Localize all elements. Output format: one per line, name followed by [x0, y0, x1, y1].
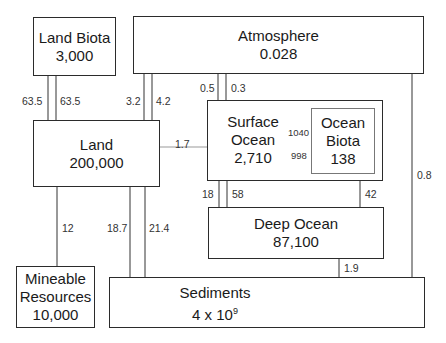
reservoir-name: Land Biota — [39, 29, 111, 47]
reservoir-value: 2,710 — [218, 149, 288, 167]
flux-label-land-to-land-biota: 63.5 — [22, 95, 42, 107]
flux-label-atmosphere-to-surface-ocean: 0.5 — [200, 82, 215, 94]
reservoir-deep-ocean: Deep Ocean 87,100 — [208, 207, 384, 259]
reservoir-name-line2: Biota — [326, 132, 360, 150]
flux-label-deep-ocean-to-sediments: 1.9 — [344, 262, 359, 274]
reservoir-name-line1: Surface — [218, 113, 288, 131]
reservoir-land: Land 200,000 — [33, 120, 160, 187]
flux-label-deep-ocean-to-surface-ocean: 18 — [202, 188, 214, 200]
reservoir-name-line1: Mineable — [25, 270, 86, 288]
flux-label-land-to-atmosphere: 4.2 — [156, 95, 171, 107]
flux-label-land-to-surface-ocean: 1.7 — [175, 138, 190, 150]
reservoir-value: 0.028 — [260, 45, 298, 63]
flux-label-ocean-biota-to-surface-ocean: 998 — [291, 150, 307, 161]
reservoir-atmosphere: Atmosphere 0.028 — [133, 16, 424, 74]
flux-label-ocean-biota-to-deep-ocean: 42 — [365, 188, 377, 200]
reservoir-name: Atmosphere — [238, 27, 319, 45]
reservoir-value: 200,000 — [69, 154, 123, 172]
reservoir-ocean-biota: Ocean Biota 138 — [311, 108, 375, 174]
reservoir-sediments: Sediments 4 x 109 — [109, 277, 425, 328]
flux-label-atmosphere-to-sediments: 0.8 — [417, 169, 432, 181]
reservoir-value: 10,000 — [33, 306, 79, 324]
value-base: 4 x 10 — [192, 306, 233, 323]
flux-label-atmosphere-to-land: 3.2 — [126, 95, 141, 107]
flux-label-surface-ocean-to-deep-ocean: 58 — [232, 188, 244, 200]
flux-label-surface-ocean-to-atmosphere: 0.3 — [231, 82, 246, 94]
reservoir-mineable-resources: Mineable Resources 10,000 — [16, 266, 95, 328]
reservoir-value: 4 x 109 — [110, 302, 320, 324]
reservoir-value: 3,000 — [56, 47, 94, 65]
reservoir-name-line1: Ocean — [321, 114, 365, 132]
flux-label-sediments-to-land: 21.4 — [149, 222, 169, 234]
flux-label-surface-ocean-to-ocean-biota: 1040 — [288, 127, 309, 138]
flux-label-mineable-to-land: 12 — [62, 222, 74, 234]
reservoir-land-biota: Land Biota 3,000 — [33, 17, 116, 76]
flux-label-land-to-sediments: 18.7 — [107, 222, 127, 234]
flux-label-land-biota-to-land: 63.5 — [60, 95, 80, 107]
reservoir-name-line2: Resources — [20, 288, 92, 306]
reservoir-name-line2: Ocean — [218, 131, 288, 149]
reservoir-name: Sediments — [110, 284, 320, 302]
reservoir-name: Land — [80, 136, 113, 154]
reservoir-value: 87,100 — [273, 233, 319, 251]
reservoir-name: Deep Ocean — [254, 215, 338, 233]
value-exponent: 9 — [233, 306, 238, 316]
reservoir-value: 138 — [330, 150, 355, 168]
